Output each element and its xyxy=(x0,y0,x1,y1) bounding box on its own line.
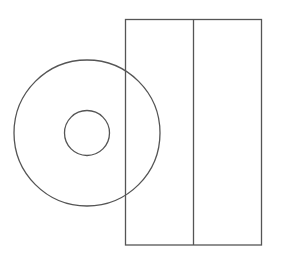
diagram-canvas xyxy=(0,0,284,255)
background xyxy=(0,0,284,255)
diagram-svg xyxy=(0,0,284,255)
